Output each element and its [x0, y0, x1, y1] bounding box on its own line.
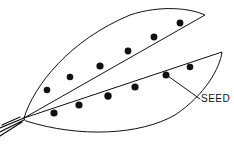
stem: [0, 117, 24, 136]
lower-pod-half: [24, 52, 222, 132]
seed-label: SEED: [201, 93, 230, 104]
seed-leader-line: [168, 76, 200, 99]
seed-pod-illustration: SEED: [0, 0, 234, 144]
